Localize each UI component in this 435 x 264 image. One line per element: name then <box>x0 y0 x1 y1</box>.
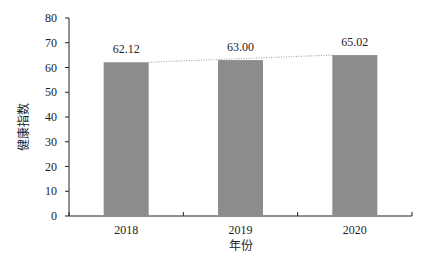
bar-2019 <box>218 60 263 216</box>
y-tick-label: 30 <box>45 135 57 149</box>
y-tick-label: 60 <box>45 61 57 75</box>
y-tick-label: 20 <box>45 160 57 174</box>
y-tick-label: 80 <box>45 11 57 25</box>
y-axis-title: 健康指数 <box>16 103 31 151</box>
x-tick-label: 2018 <box>114 223 138 237</box>
bar-2018 <box>104 62 149 216</box>
y-tick-label: 10 <box>45 184 57 198</box>
bar-2020 <box>332 55 377 216</box>
data-label: 63.00 <box>227 40 254 54</box>
y-tick-label: 40 <box>45 110 57 124</box>
x-tick-label: 2020 <box>343 223 367 237</box>
x-tick-label: 2019 <box>229 223 253 237</box>
y-tick-label: 70 <box>45 36 57 50</box>
y-tick-label: 50 <box>45 85 57 99</box>
y-tick-label: 0 <box>51 209 57 223</box>
data-label: 65.02 <box>341 35 368 49</box>
data-label: 62.12 <box>113 42 140 56</box>
bar-chart: 0102030405060708062.12201863.00201965.02… <box>0 0 435 264</box>
x-axis-title: 年份 <box>229 239 253 253</box>
